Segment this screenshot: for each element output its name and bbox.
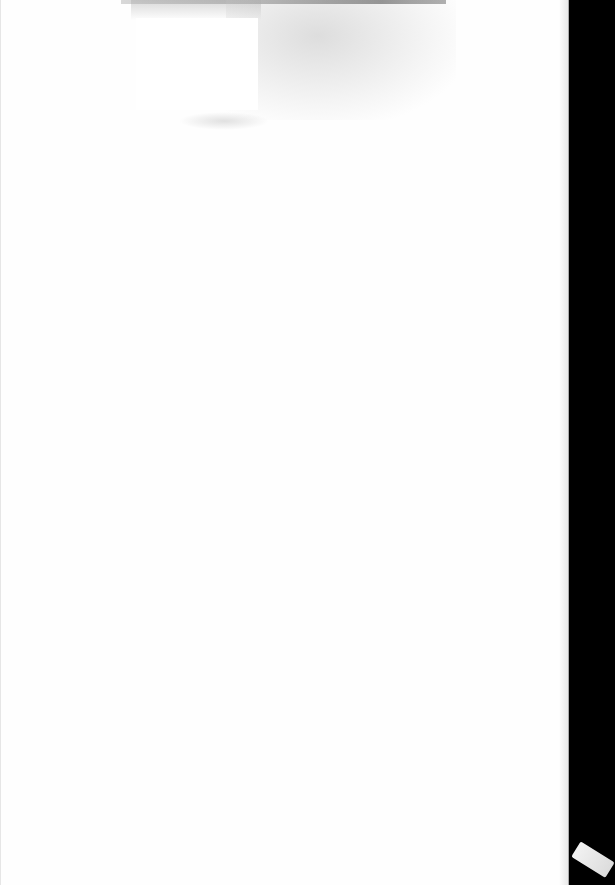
blank-page bbox=[0, 0, 568, 885]
blank-label-patch bbox=[136, 18, 258, 110]
bleed-through-stain bbox=[226, 0, 456, 120]
paper-tab bbox=[571, 841, 614, 877]
scanned-document bbox=[0, 0, 615, 885]
page-edge-shadow bbox=[559, 0, 569, 885]
faint-smudge bbox=[179, 112, 269, 130]
